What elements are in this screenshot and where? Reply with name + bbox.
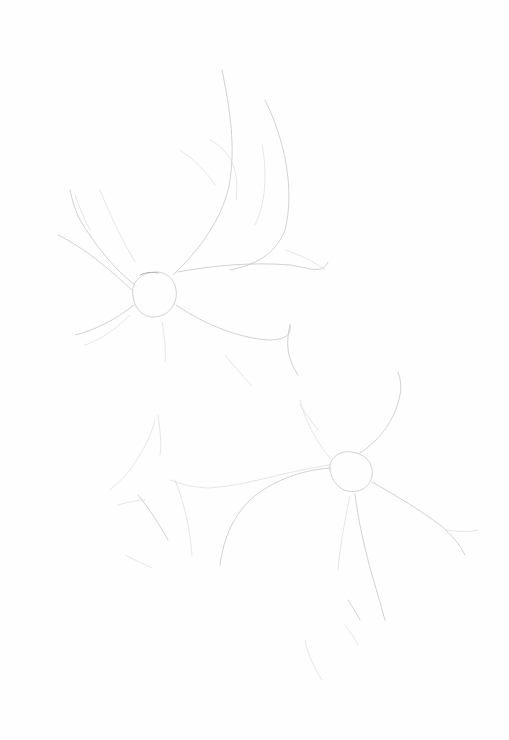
upper-flower (58, 70, 328, 386)
flower-center (330, 452, 373, 492)
flower-sketch (0, 0, 509, 740)
flower-center (133, 272, 177, 317)
sketch-canvas (0, 0, 509, 740)
lower-flower (110, 372, 478, 680)
